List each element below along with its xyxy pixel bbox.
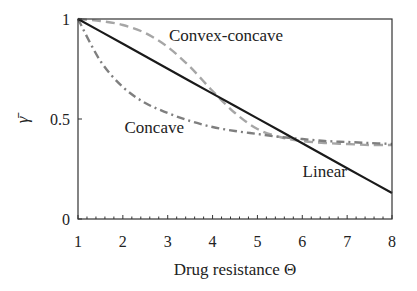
y-axis-ticks: 00.51: [50, 11, 82, 228]
curve-labels: Convex-concaveConcaveLinear: [125, 26, 348, 181]
curve-label-concave: Concave: [125, 118, 184, 137]
x-tick-label: 6: [298, 233, 306, 250]
x-tick-label: 5: [253, 233, 261, 250]
x-tick-label: 1: [74, 233, 82, 250]
x-tick-label: 3: [164, 233, 172, 250]
x-axis-ticks: 12345678: [74, 233, 396, 250]
y-tick-label: 1: [62, 11, 70, 28]
curve-label-convex-concave: Convex-concave: [169, 26, 283, 45]
y-axis-label-text: γ̄: [13, 112, 32, 124]
x-axis-label: Drug resistance Θ: [174, 260, 297, 279]
x-tick-label: 2: [119, 233, 127, 250]
curve-label-linear: Linear: [303, 162, 348, 181]
x-tick-label: 7: [343, 233, 351, 250]
x-minor-ticks: [78, 215, 392, 219]
line-chart: 00.51 12345678 Convex-concaveConcaveLine…: [0, 0, 417, 291]
x-tick-label: 8: [388, 233, 396, 250]
y-axis-label: γ̄: [13, 112, 32, 124]
y-tick-label: 0: [62, 211, 70, 228]
y-tick-label: 0.5: [50, 111, 70, 128]
x-tick-label: 4: [209, 233, 217, 250]
